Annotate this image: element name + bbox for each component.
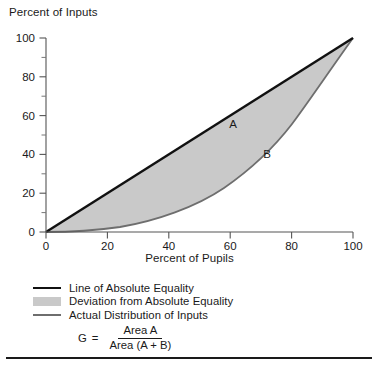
x-tick-label: 60 [224,240,237,250]
x-tick-label: 40 [162,240,175,250]
area-a-label: A [229,118,237,130]
x-tick-label: 100 [343,240,362,250]
legend-label: Actual Distribution of Inputs [69,309,208,321]
bottom-divider [6,357,372,359]
chart-legend: Line of Absolute Equality Deviation from… [32,281,332,322]
legend-swatch-line-icon [32,282,62,294]
y-tick-label: 40 [22,148,35,160]
y-tick-labels: 0 20 40 60 80 100 [16,32,35,238]
legend-swatch-curve-icon [32,309,62,321]
legend-swatch-fill-icon [32,295,62,307]
x-axis-major-ticks [46,232,353,239]
area-b-label: B [263,148,271,160]
legend-item-actual-distribution: Actual Distribution of Inputs [32,308,332,322]
formula-equals: = [92,332,99,344]
legend-item-equality-line: Line of Absolute Equality [32,281,332,295]
x-axis-title: Percent of Pupils [0,252,379,264]
x-tick-label: 80 [285,240,298,250]
y-tick-label: 80 [22,71,35,83]
formula-fraction: Area A Area (A + B) [104,324,176,353]
y-tick-label: 20 [22,187,35,199]
y-tick-label: 100 [16,32,35,44]
lorenz-curve-figure: Percent of Inputs [0,0,379,375]
x-tick-label: 0 [43,240,49,250]
legend-label: Line of Absolute Equality [69,282,194,294]
formula-numerator: Area A [118,324,162,339]
plot-area: 0 20 40 60 80 100 0 20 40 60 80 100 A B [0,0,379,250]
x-tick-labels: 0 20 40 60 80 100 [43,240,363,250]
y-tick-label: 60 [22,110,35,122]
formula-denominator: Area (A + B) [104,339,176,353]
legend-label: Deviation from Absolute Equality [69,295,233,307]
gini-formula: G = Area A Area (A + B) [78,324,176,353]
y-tick-label: 0 [29,226,35,238]
formula-symbol: G [78,332,87,344]
y-axis-minor-ticks [42,57,47,212]
legend-item-deviation-area: Deviation from Absolute Equality [32,295,332,309]
x-tick-label: 20 [101,240,114,250]
